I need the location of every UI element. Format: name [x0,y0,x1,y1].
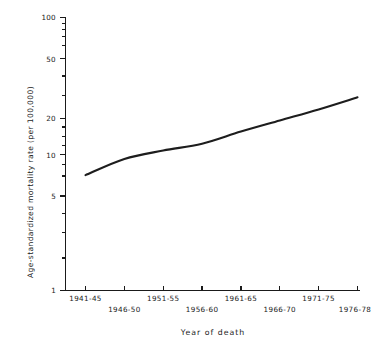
y-major-ticks [60,18,66,291]
y-tick-labels: 100 50 20 10 5 1 [41,13,56,295]
x-tick-labels: 1941-45 1946-50 1951-55 1956-60 1961-65 … [69,294,371,314]
x-tick-label: 1966-70 [264,305,297,314]
x-tick-label: 1941-45 [69,294,101,303]
x-tick-label: 1951-55 [147,294,179,303]
x-tick-label: 1976-78 [339,305,372,314]
y-tick-label: 100 [41,13,56,22]
x-axis-title: Year of death [180,328,246,337]
x-tick-label: 1961-65 [225,294,257,303]
y-tick-label: 10 [46,151,56,160]
x-ticks [86,286,358,291]
y-tick-label: 50 [46,55,56,64]
y-tick-label: 1 [51,286,56,295]
data-series-line [86,97,358,175]
chart-figure: Age-standardized mortality rate (per 100… [0,0,374,347]
x-tick-label: 1956-60 [186,305,219,314]
y-axis-title: Age-standardized mortality rate (per 100… [26,86,35,278]
x-tick-label: 1946-50 [108,305,141,314]
x-tick-label: 1971-75 [302,294,334,303]
y-tick-label: 20 [46,114,56,123]
line-chart: Age-standardized mortality rate (per 100… [0,0,374,347]
y-tick-label: 5 [51,192,56,201]
